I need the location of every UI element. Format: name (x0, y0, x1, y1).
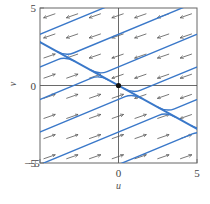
x-tick-label-max: 5 (194, 167, 200, 179)
x-axis-label: u (116, 180, 121, 191)
phase-portrait-chart: −5 0 5 5 0 −5 u v (0, 0, 210, 204)
trajectory-curve (205, 144, 210, 161)
trajectory-curve (24, 38, 41, 43)
fixed-point-marker (116, 83, 121, 88)
x-tick-label-zero: 0 (116, 167, 122, 179)
y-axis-label: v (7, 81, 18, 86)
trajectory-curve (0, 0, 32, 6)
y-tick-label-zero: 0 (31, 80, 37, 92)
trajectory-curve (0, 5, 32, 24)
y-tick-label-max: 5 (31, 2, 37, 14)
y-tick-label-min: −5 (24, 157, 36, 169)
